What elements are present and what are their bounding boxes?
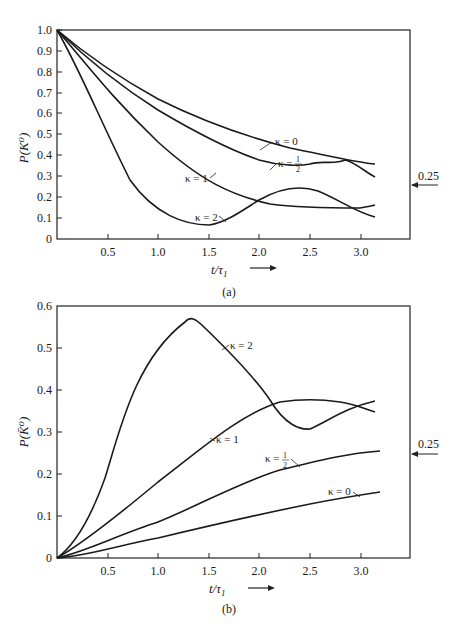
svg-text:0.8: 0.8 — [37, 65, 52, 79]
svg-text:0.25: 0.25 — [418, 437, 439, 451]
svg-text:0.2: 0.2 — [37, 467, 52, 481]
svg-text:2: 2 — [283, 461, 287, 470]
x-tick-labels-b: 0.5 1.0 1.5 2.0 2.5 3.0 — [101, 564, 369, 578]
reference-arrow-b: 0.25 — [411, 437, 439, 457]
svg-text:2.0: 2.0 — [252, 564, 267, 578]
x-axis-title-a: t/τ1 — [211, 262, 227, 279]
label-a-k1: κ = 1 — [185, 172, 208, 184]
svg-text:1.5: 1.5 — [202, 564, 217, 578]
svg-text:0.5: 0.5 — [37, 127, 52, 141]
arrow-right-icon — [248, 585, 275, 591]
svg-text:0.25: 0.25 — [418, 169, 439, 183]
svg-text:0.2: 0.2 — [37, 190, 52, 204]
svg-text:2: 2 — [296, 165, 300, 174]
svg-text:0.3: 0.3 — [37, 169, 52, 183]
svg-text:1: 1 — [283, 451, 287, 460]
curve-b-khalf — [57, 451, 380, 558]
svg-text:0: 0 — [46, 232, 52, 246]
svg-text:0.4: 0.4 — [37, 148, 52, 162]
svg-text:0.5: 0.5 — [101, 245, 116, 259]
svg-text:1.0: 1.0 — [37, 23, 52, 37]
svg-text:3.0: 3.0 — [354, 564, 369, 578]
svg-text:2.5: 2.5 — [303, 245, 318, 259]
panel-a: 1.0 0.9 0.8 0.7 0.6 0.5 0.4 0.3 0.2 0.1 … — [16, 23, 439, 299]
svg-text:1.0: 1.0 — [151, 564, 166, 578]
x-axis-title-b: t/τ1 — [209, 581, 225, 598]
svg-text:0.1: 0.1 — [37, 211, 52, 225]
svg-text:0.6: 0.6 — [37, 299, 52, 313]
label-b-k0: κ = 0 — [328, 485, 351, 497]
y-ticks-b — [57, 348, 62, 516]
svg-text:0.7: 0.7 — [37, 86, 52, 100]
y-ticks-a — [57, 30, 62, 218]
x-ticks-b — [108, 553, 361, 558]
svg-text:0.5: 0.5 — [101, 564, 116, 578]
x-ticks-a — [108, 234, 361, 239]
curve-a-k1 — [57, 30, 375, 208]
label-a-k0: κ = 0 — [275, 135, 298, 147]
svg-text:3.0: 3.0 — [354, 245, 369, 259]
arrow-right-icon — [250, 265, 277, 271]
svg-text:1.0: 1.0 — [151, 245, 166, 259]
panel-b: 0.6 0.5 0.4 0.3 0.2 0.1 0 0.5 1.0 1.5 2.… — [16, 299, 439, 616]
y-tick-labels-a: 1.0 0.9 0.8 0.7 0.6 0.5 0.4 0.3 0.2 0.1 … — [37, 23, 52, 246]
reference-arrow-a: 0.25 — [411, 169, 439, 188]
curve-a-k0 — [57, 30, 375, 164]
svg-text:2.0: 2.0 — [252, 245, 267, 259]
svg-text:0.3: 0.3 — [37, 425, 52, 439]
svg-text:0.4: 0.4 — [37, 383, 52, 397]
x-tick-labels-a: 0.5 1.0 1.5 2.0 2.5 3.0 — [101, 245, 369, 259]
svg-text:1.5: 1.5 — [202, 245, 217, 259]
label-a-khalf: κ = — [278, 157, 293, 169]
svg-text:0.5: 0.5 — [37, 341, 52, 355]
y-tick-labels-b: 0.6 0.5 0.4 0.3 0.2 0.1 0 — [37, 299, 52, 565]
figure: 1.0 0.9 0.8 0.7 0.6 0.5 0.4 0.3 0.2 0.1 … — [0, 0, 460, 624]
label-b-k1: κ = 1 — [216, 433, 239, 445]
caption-a: (a) — [222, 285, 235, 299]
label-b-khalf: κ = — [265, 452, 280, 464]
curves-a — [57, 30, 375, 225]
caption-b: (b) — [222, 602, 236, 616]
svg-text:0.1: 0.1 — [37, 509, 52, 523]
svg-text:1: 1 — [296, 155, 300, 164]
svg-text:0: 0 — [46, 551, 52, 565]
y-axis-title-a: P(K⁰) — [16, 133, 31, 164]
svg-text:0.9: 0.9 — [37, 44, 52, 58]
curve-a-k2 — [57, 30, 375, 225]
label-b-k2: κ = 2 — [230, 339, 253, 351]
y-axis-title-b: P(K̄⁰) — [16, 417, 31, 448]
svg-text:0.6: 0.6 — [37, 106, 52, 120]
label-a-k2: κ = 2 — [195, 211, 218, 223]
svg-text:2.5: 2.5 — [303, 564, 318, 578]
